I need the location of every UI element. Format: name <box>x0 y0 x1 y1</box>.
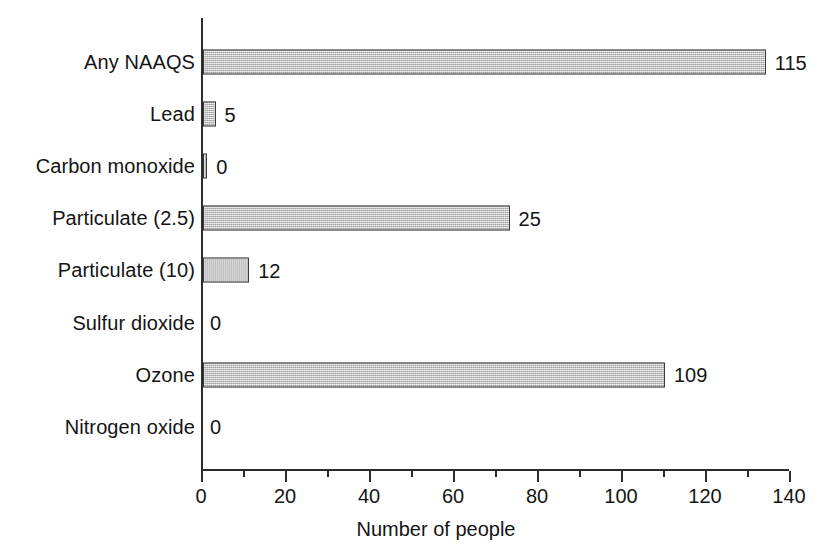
x-tick-major <box>285 471 287 482</box>
category-label: Ozone <box>136 363 195 386</box>
category-label: Particulate (2.5) <box>52 207 195 230</box>
category-label: Sulfur dioxide <box>72 311 195 334</box>
bar-row: Nitrogen oxide0 <box>0 401 824 453</box>
bar-value-label: 0 <box>216 156 227 176</box>
bar-group: 25 <box>203 206 541 231</box>
bar-chart: Any NAAQS115Lead5Carbon monoxide0Particu… <box>0 0 824 557</box>
bar <box>203 362 665 387</box>
x-tick-major <box>789 471 791 482</box>
x-tick-minor <box>495 471 497 477</box>
bar-value-label: 0 <box>210 313 221 333</box>
bar-value-label: 5 <box>225 104 236 124</box>
bar <box>203 50 766 75</box>
bar-group: 0 <box>203 310 221 335</box>
bar-group: 12 <box>203 258 280 283</box>
x-tick-minor <box>663 471 665 477</box>
x-tick-major <box>201 471 203 482</box>
bar-group: 5 <box>203 102 236 127</box>
x-tick-label: 80 <box>526 485 548 508</box>
bar-value-label: 0 <box>210 417 221 437</box>
bar-row: Lead5 <box>0 88 824 140</box>
x-tick-label: 60 <box>442 485 464 508</box>
x-tick-minor <box>411 471 413 477</box>
bar-row: Any NAAQS115 <box>0 36 824 88</box>
bar-row: Carbon monoxide0 <box>0 140 824 192</box>
x-tick-label: 0 <box>195 485 206 508</box>
bar-row: Ozone109 <box>0 349 824 401</box>
bar <box>203 102 216 127</box>
category-label: Any NAAQS <box>84 51 195 74</box>
x-axis-title: Number of people <box>0 518 824 541</box>
category-label: Carbon monoxide <box>36 155 195 178</box>
category-label: Nitrogen oxide <box>65 415 195 438</box>
x-tick-minor <box>327 471 329 477</box>
x-tick-label: 120 <box>688 485 721 508</box>
category-label: Lead <box>150 103 195 126</box>
category-label: Particulate (10) <box>58 259 195 282</box>
bar-row: Particulate (2.5)25 <box>0 192 824 244</box>
x-tick-label: 100 <box>604 485 637 508</box>
x-tick-label: 40 <box>358 485 380 508</box>
bar-group: 0 <box>203 154 227 179</box>
bar-value-label: 25 <box>519 208 541 228</box>
bar-value-label: 115 <box>775 52 807 72</box>
x-tick-label: 20 <box>274 485 296 508</box>
bar <box>203 206 510 231</box>
x-tick-minor <box>747 471 749 477</box>
plot-area: Any NAAQS115Lead5Carbon monoxide0Particu… <box>0 0 824 557</box>
x-tick-major <box>621 471 623 482</box>
bar-group: 0 <box>203 414 221 439</box>
x-tick-minor <box>243 471 245 477</box>
bar <box>203 154 207 179</box>
x-tick-major <box>369 471 371 482</box>
bar <box>203 258 249 283</box>
bar-value-label: 12 <box>258 260 280 280</box>
x-tick-major <box>537 471 539 482</box>
x-tick-minor <box>579 471 581 477</box>
bar-group: 109 <box>203 362 707 387</box>
bar-group: 115 <box>203 50 807 75</box>
bar-row: Particulate (10)12 <box>0 244 824 296</box>
x-tick-major <box>453 471 455 482</box>
x-axis-title-text: Number of people <box>357 518 516 541</box>
bar-row: Sulfur dioxide0 <box>0 297 824 349</box>
bar-value-label: 109 <box>674 365 707 385</box>
x-tick-label: 140 <box>772 485 805 508</box>
x-tick-major <box>705 471 707 482</box>
